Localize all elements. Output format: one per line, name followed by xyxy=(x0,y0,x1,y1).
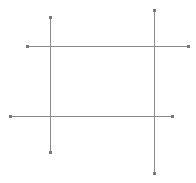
grid-lines-diagram xyxy=(0,0,196,183)
line-vertical-left xyxy=(49,16,52,154)
endpoint-marker-end xyxy=(187,45,190,48)
endpoint-marker-start xyxy=(26,45,29,48)
endpoint-marker-end xyxy=(153,172,156,175)
line-vertical-right xyxy=(153,9,156,175)
endpoint-marker-start xyxy=(153,9,156,12)
line-horizontal-bottom xyxy=(9,115,174,118)
endpoint-marker-end xyxy=(49,151,52,154)
endpoint-marker-start xyxy=(49,16,52,19)
endpoint-marker-start xyxy=(9,115,12,118)
endpoint-marker-end xyxy=(171,115,174,118)
diagram-canvas xyxy=(0,0,196,183)
